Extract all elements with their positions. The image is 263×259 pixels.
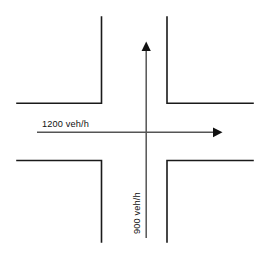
horizontal-flow-label: 1200 veh/h (42, 119, 89, 129)
vertical-flow-label: 900 veh/h (132, 192, 142, 234)
intersection-svg-canvas: 1200 veh/h 900 veh/h (0, 0, 263, 259)
intersection-diagram: 1200 veh/h 900 veh/h (0, 0, 263, 259)
